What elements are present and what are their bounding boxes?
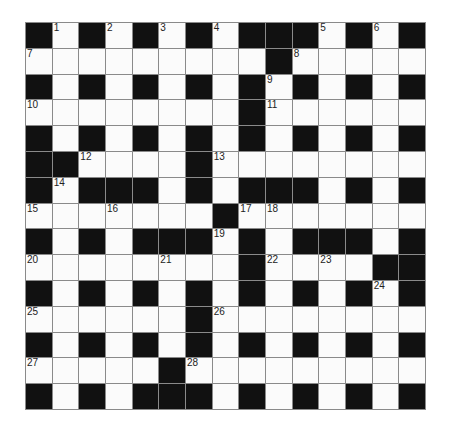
answer-cell[interactable]: 28 [186, 358, 212, 383]
answer-cell[interactable] [213, 384, 239, 409]
answer-cell[interactable]: 17 [239, 204, 265, 229]
answer-cell[interactable]: 27 [26, 358, 52, 383]
answer-cell[interactable] [346, 358, 372, 383]
answer-cell[interactable] [319, 75, 345, 100]
answer-cell[interactable] [373, 358, 399, 383]
answer-cell[interactable] [346, 152, 372, 177]
answer-cell[interactable] [373, 178, 399, 203]
answer-cell[interactable] [186, 204, 212, 229]
answer-cell[interactable] [79, 358, 105, 383]
answer-cell[interactable]: 2 [106, 23, 132, 48]
answer-cell[interactable]: 19 [213, 229, 239, 254]
answer-cell[interactable] [53, 333, 79, 358]
answer-cell[interactable] [159, 333, 185, 358]
answer-cell[interactable] [213, 75, 239, 100]
answer-cell[interactable] [373, 75, 399, 100]
answer-cell[interactable]: 24 [373, 281, 399, 306]
answer-cell[interactable] [133, 204, 159, 229]
answer-cell[interactable] [53, 358, 79, 383]
answer-cell[interactable] [53, 75, 79, 100]
answer-cell[interactable]: 25 [26, 307, 52, 332]
answer-cell[interactable] [106, 384, 132, 409]
answer-cell[interactable] [133, 255, 159, 280]
answer-cell[interactable] [79, 49, 105, 74]
answer-cell[interactable] [53, 100, 79, 125]
answer-cell[interactable] [293, 204, 319, 229]
answer-cell[interactable] [319, 333, 345, 358]
answer-cell[interactable] [79, 255, 105, 280]
answer-cell[interactable] [159, 178, 185, 203]
answer-cell[interactable] [319, 307, 345, 332]
answer-cell[interactable] [373, 204, 399, 229]
answer-cell[interactable] [159, 75, 185, 100]
answer-cell[interactable] [293, 255, 319, 280]
answer-cell[interactable] [106, 333, 132, 358]
answer-cell[interactable] [373, 100, 399, 125]
answer-cell[interactable] [319, 281, 345, 306]
answer-cell[interactable] [373, 307, 399, 332]
answer-cell[interactable]: 15 [26, 204, 52, 229]
answer-cell[interactable] [213, 281, 239, 306]
answer-cell[interactable] [399, 49, 425, 74]
answer-cell[interactable]: 21 [159, 255, 185, 280]
answer-cell[interactable] [106, 229, 132, 254]
answer-cell[interactable] [159, 307, 185, 332]
answer-cell[interactable] [319, 204, 345, 229]
answer-cell[interactable] [213, 333, 239, 358]
answer-cell[interactable] [106, 152, 132, 177]
answer-cell[interactable]: 5 [319, 23, 345, 48]
answer-cell[interactable]: 1 [53, 23, 79, 48]
answer-cell[interactable] [159, 126, 185, 151]
answer-cell[interactable]: 18 [266, 204, 292, 229]
answer-cell[interactable] [266, 152, 292, 177]
answer-cell[interactable] [319, 178, 345, 203]
answer-cell[interactable] [53, 255, 79, 280]
answer-cell[interactable] [319, 49, 345, 74]
answer-cell[interactable] [293, 307, 319, 332]
answer-cell[interactable] [106, 281, 132, 306]
answer-cell[interactable] [399, 358, 425, 383]
answer-cell[interactable] [159, 49, 185, 74]
answer-cell[interactable] [239, 152, 265, 177]
answer-cell[interactable]: 13 [213, 152, 239, 177]
answer-cell[interactable] [266, 229, 292, 254]
answer-cell[interactable] [266, 281, 292, 306]
answer-cell[interactable] [186, 255, 212, 280]
answer-cell[interactable]: 20 [26, 255, 52, 280]
answer-cell[interactable] [319, 100, 345, 125]
answer-cell[interactable] [266, 333, 292, 358]
answer-cell[interactable] [239, 307, 265, 332]
answer-cell[interactable] [133, 358, 159, 383]
answer-cell[interactable]: 8 [293, 49, 319, 74]
answer-cell[interactable] [319, 384, 345, 409]
answer-cell[interactable] [239, 49, 265, 74]
answer-cell[interactable] [106, 255, 132, 280]
answer-cell[interactable] [373, 49, 399, 74]
answer-cell[interactable] [53, 126, 79, 151]
answer-cell[interactable] [293, 152, 319, 177]
answer-cell[interactable] [346, 204, 372, 229]
answer-cell[interactable]: 12 [79, 152, 105, 177]
answer-cell[interactable]: 6 [373, 23, 399, 48]
answer-cell[interactable] [106, 126, 132, 151]
answer-cell[interactable] [106, 307, 132, 332]
answer-cell[interactable] [213, 49, 239, 74]
answer-cell[interactable] [373, 152, 399, 177]
answer-cell[interactable] [53, 49, 79, 74]
answer-cell[interactable] [293, 358, 319, 383]
answer-cell[interactable] [133, 100, 159, 125]
answer-cell[interactable] [346, 255, 372, 280]
answer-cell[interactable] [293, 100, 319, 125]
answer-cell[interactable] [399, 204, 425, 229]
answer-cell[interactable] [159, 152, 185, 177]
answer-cell[interactable]: 10 [26, 100, 52, 125]
answer-cell[interactable]: 3 [159, 23, 185, 48]
answer-cell[interactable] [399, 307, 425, 332]
answer-cell[interactable] [319, 126, 345, 151]
answer-cell[interactable] [373, 229, 399, 254]
answer-cell[interactable] [79, 204, 105, 229]
answer-cell[interactable] [186, 100, 212, 125]
answer-cell[interactable] [266, 126, 292, 151]
answer-cell[interactable] [266, 307, 292, 332]
answer-cell[interactable] [79, 307, 105, 332]
